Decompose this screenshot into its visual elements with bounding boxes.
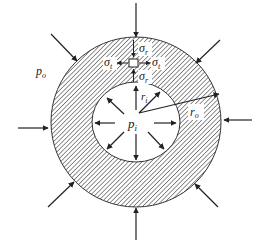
cylinder-diagram: po pi ri ro σr σr σt σt bbox=[0, 0, 266, 242]
inner-pressure-label: pi bbox=[127, 116, 138, 133]
inner-radius-label: ri bbox=[141, 90, 148, 105]
outer-pressure-label: po bbox=[35, 64, 46, 80]
